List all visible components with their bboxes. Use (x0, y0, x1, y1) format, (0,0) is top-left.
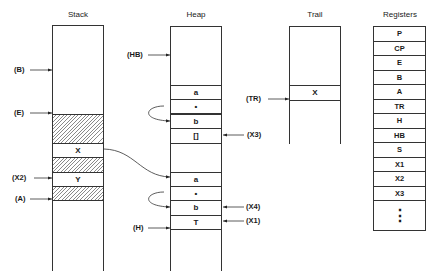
arrows-overlay (0, 0, 440, 280)
arrow-ref-loop-1 (149, 106, 170, 121)
arrow-x-to-heap (104, 149, 170, 177)
arrow-ref-loop-2 (149, 192, 170, 207)
